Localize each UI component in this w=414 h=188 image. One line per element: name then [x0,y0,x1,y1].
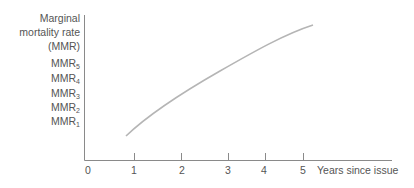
mortality-chart: Marginal mortality rate (MMR) MMR5 MMR4 … [0,0,414,188]
y-tick-mmr4: MMR4 [51,72,80,88]
x-tick-label-2: 2 [179,164,185,176]
y-axis-title-line-1: Marginal [19,11,80,25]
y-axis-title: Marginal mortality rate (MMR) [19,11,80,53]
y-tick-mmr5: MMR5 [51,57,80,73]
y-axis-title-line-2: mortality rate [19,25,80,39]
x-axis-title: Years since issue [317,164,398,176]
y-axis-title-line-3: (MMR) [19,39,80,53]
x-tick-label-0: 0 [85,164,91,176]
x-tick-label-5: 5 [300,164,306,176]
mmr-curve [126,25,313,136]
x-tick-label-3: 3 [225,164,231,176]
x-tick-label-1: 1 [131,164,137,176]
x-tick-label-4: 4 [261,164,267,176]
y-tick-mmr1: MMR1 [51,115,80,131]
